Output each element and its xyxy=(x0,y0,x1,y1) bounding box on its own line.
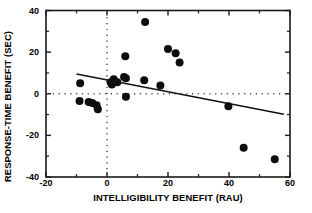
y-tick-label: 20 xyxy=(17,47,39,57)
x-axis-label: INTELLIGIBILITY BENEFIT (RAU) xyxy=(46,192,290,203)
data-point xyxy=(94,105,102,113)
x-tick-label: 60 xyxy=(285,178,295,188)
data-point xyxy=(224,102,232,110)
data-point xyxy=(76,79,84,87)
data-point xyxy=(176,59,184,67)
y-tick-label: -40 xyxy=(17,172,39,182)
data-point xyxy=(113,78,121,86)
y-tick-label: -20 xyxy=(17,130,39,140)
data-point xyxy=(240,144,248,152)
data-point xyxy=(76,97,84,105)
x-tick-label: 0 xyxy=(104,178,109,188)
y-tick-label: 40 xyxy=(17,6,39,16)
data-point xyxy=(121,52,129,60)
data-point xyxy=(122,74,130,82)
data-point xyxy=(156,81,164,89)
data-point xyxy=(271,155,279,163)
x-tick-label: 40 xyxy=(224,178,234,188)
reference-lines xyxy=(47,12,289,177)
x-tick-label: 20 xyxy=(163,178,173,188)
scatter-plot-figure: RESPONSE-TIME BENEFIT (SEC) INTELLIGIBIL… xyxy=(0,0,312,213)
y-tick-label: 0 xyxy=(17,89,39,99)
data-point xyxy=(122,93,130,101)
x-axis-minor-ticks xyxy=(77,11,260,178)
data-point xyxy=(140,76,148,84)
data-point xyxy=(141,18,149,26)
data-points xyxy=(76,18,279,163)
data-point xyxy=(172,49,180,57)
x-tick-label: -20 xyxy=(39,178,52,188)
data-point xyxy=(164,45,172,53)
